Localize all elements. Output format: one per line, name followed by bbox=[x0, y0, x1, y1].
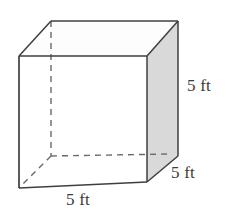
cube-figure: 5 ft 5 ft 5 ft bbox=[0, 0, 231, 213]
cube-drawing bbox=[0, 0, 231, 213]
cube-front-face bbox=[19, 56, 147, 188]
dimension-label-width: 5 ft bbox=[66, 190, 90, 210]
dimension-label-height: 5 ft bbox=[187, 76, 211, 96]
dimension-label-depth: 5 ft bbox=[171, 163, 195, 183]
